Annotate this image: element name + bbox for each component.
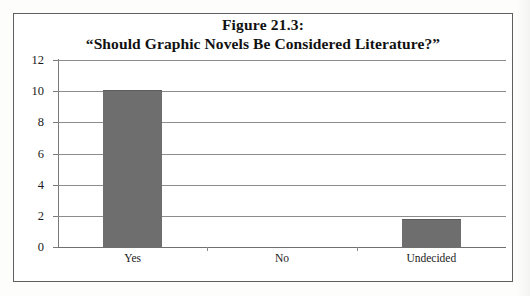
figure-title-line-1: Figure 21.3: [14, 15, 512, 34]
y-axis-label-12: 12 [10, 54, 44, 66]
scan-edge-shadow [516, 0, 530, 296]
y-axis-label-10: 10 [10, 85, 44, 97]
bar-yes [103, 90, 162, 247]
figure-title-line-2: “Should Graphic Novels Be Considered Lit… [14, 34, 512, 54]
y-axis-label-4: 4 [10, 179, 44, 191]
x-axis-label-yes: Yes [58, 252, 207, 265]
x-axis-label-no: No [207, 252, 356, 265]
plot-area [58, 60, 506, 247]
y-axis-label-2: 2 [10, 210, 44, 222]
gridline-12 [58, 60, 506, 61]
x-tick-1 [207, 247, 208, 251]
x-axis-label-undecided: Undecided [357, 252, 506, 265]
bar-undecided [402, 219, 461, 247]
x-tick-2 [357, 247, 358, 251]
y-axis-label-0: 0 [10, 241, 44, 253]
y-axis-label-8: 8 [10, 116, 44, 128]
figure-page: Figure 21.3: “Should Graphic Novels Be C… [0, 0, 530, 296]
gridline-0 [58, 247, 506, 248]
figure-title: Figure 21.3: “Should Graphic Novels Be C… [14, 15, 512, 54]
y-axis-label-6: 6 [10, 148, 44, 160]
